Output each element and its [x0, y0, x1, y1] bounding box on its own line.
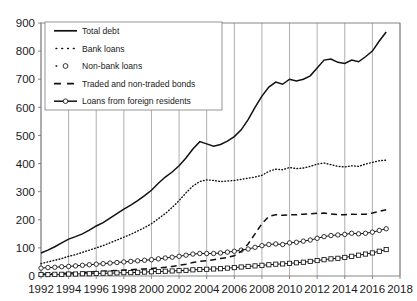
- data-point-marker: [343, 232, 347, 236]
- data-point-marker: [67, 272, 71, 276]
- data-point-marker: [218, 267, 222, 271]
- data-point-marker: [73, 264, 77, 268]
- data-point-marker: [60, 272, 64, 276]
- y-tick-label: 500: [16, 130, 35, 142]
- data-point-marker: [101, 261, 105, 265]
- line-chart: 0100200300400500600700800900199219941996…: [0, 0, 417, 301]
- x-tick-label: 2008: [249, 283, 275, 295]
- series-bank-loans: [41, 160, 386, 263]
- data-point-marker: [46, 265, 50, 269]
- legend-swatch-circle-marker: [63, 99, 68, 104]
- data-point-marker: [184, 268, 188, 272]
- data-point-marker: [46, 272, 50, 276]
- data-point-marker: [384, 247, 388, 251]
- data-point-marker: [163, 256, 167, 260]
- data-point-marker: [122, 271, 126, 275]
- data-point-marker: [94, 271, 98, 275]
- data-point-marker: [239, 265, 243, 269]
- data-point-marker: [136, 270, 140, 274]
- data-point-marker: [343, 255, 347, 259]
- data-point-marker: [211, 251, 215, 255]
- x-tick-label: 2014: [332, 283, 358, 295]
- data-point-marker: [287, 261, 291, 265]
- data-point-marker: [156, 269, 160, 273]
- x-tick-label: 1992: [28, 283, 54, 295]
- data-point-marker: [356, 232, 360, 236]
- x-tick-label: 1998: [111, 283, 137, 295]
- data-point-marker: [370, 230, 374, 234]
- data-point-marker: [53, 265, 57, 269]
- legend-label-nonbank: Non-bank loans: [82, 61, 142, 71]
- data-point-marker: [115, 260, 119, 264]
- y-tick-label: 200: [16, 214, 35, 226]
- y-tick-label: 400: [16, 158, 35, 170]
- x-tick-label: 1996: [83, 283, 109, 295]
- data-point-marker: [329, 233, 333, 237]
- data-point-marker: [191, 268, 195, 272]
- data-point-marker: [350, 254, 354, 258]
- data-point-marker: [115, 271, 119, 275]
- legend-label-foreign: Loans from foreign residents: [82, 96, 191, 106]
- data-point-marker: [336, 256, 340, 260]
- data-point-marker: [232, 265, 236, 269]
- x-tick-label: 2000: [139, 283, 165, 295]
- data-point-marker: [204, 251, 208, 255]
- data-point-marker: [142, 258, 146, 262]
- y-tick-label: 0: [29, 270, 35, 282]
- data-point-marker: [363, 252, 367, 256]
- data-point-marker: [253, 264, 257, 268]
- data-point-marker: [135, 259, 139, 263]
- data-point-marker: [281, 262, 285, 266]
- data-point-marker: [149, 270, 153, 274]
- data-point-marker: [53, 272, 57, 276]
- data-point-marker: [315, 236, 319, 240]
- data-point-marker: [301, 260, 305, 264]
- y-tick-label: 600: [16, 102, 35, 114]
- data-point-marker: [308, 238, 312, 242]
- data-point-marker: [267, 263, 271, 267]
- data-point-marker: [122, 260, 126, 264]
- data-point-marker: [267, 242, 271, 246]
- data-point-marker: [87, 272, 91, 276]
- data-point-marker: [108, 271, 112, 275]
- data-point-marker: [260, 263, 264, 267]
- data-point-marker: [177, 269, 181, 273]
- data-point-marker: [184, 253, 188, 257]
- x-tick-label: 1994: [56, 283, 82, 295]
- legend-swatch-circle-marker: [63, 64, 68, 69]
- series-line-bank-loans: [41, 160, 386, 263]
- data-point-marker: [39, 266, 43, 270]
- data-point-marker: [129, 271, 133, 275]
- x-tick-label: 2018: [387, 283, 413, 295]
- x-tick-label: 2016: [360, 283, 386, 295]
- x-tick-label: 2012: [304, 283, 330, 295]
- data-point-marker: [246, 264, 250, 268]
- data-point-marker: [370, 251, 374, 255]
- data-point-marker: [384, 227, 388, 231]
- data-point-marker: [349, 231, 353, 235]
- series-line-non-bank-loans: [41, 229, 386, 268]
- legend: Total debtBank loansNon-bank loansTraded…: [45, 22, 222, 110]
- data-point-marker: [73, 272, 77, 276]
- data-point-marker: [294, 240, 298, 244]
- data-point-marker: [170, 255, 174, 259]
- data-point-marker: [232, 249, 236, 253]
- data-point-marker: [322, 258, 326, 262]
- data-point-marker: [336, 233, 340, 237]
- y-tick-label: 800: [16, 45, 35, 57]
- data-point-marker: [218, 251, 222, 255]
- data-point-marker: [377, 228, 381, 232]
- data-point-marker: [177, 254, 181, 258]
- data-point-marker: [356, 253, 360, 257]
- data-point-marker: [280, 242, 284, 246]
- data-point-marker: [80, 263, 84, 267]
- y-tick-label: 900: [16, 17, 35, 29]
- y-axis: 0100200300400500600700800900: [16, 17, 41, 282]
- legend-label-total: Total debt: [82, 26, 120, 36]
- data-point-marker: [129, 259, 133, 263]
- legend-label-bank: Bank loans: [82, 44, 125, 54]
- data-point-marker: [142, 270, 146, 274]
- data-point-marker: [108, 261, 112, 265]
- data-point-marker: [198, 267, 202, 271]
- data-point-marker: [363, 231, 367, 235]
